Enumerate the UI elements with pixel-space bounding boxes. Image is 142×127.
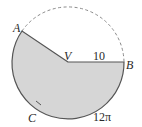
shaded-sector [12, 31, 124, 119]
sector-diagram: A V 10 B C 12π [0, 0, 142, 127]
label-v: V [64, 49, 73, 63]
label-a: A [12, 21, 21, 35]
label-c: C [28, 111, 37, 125]
label-arc-length: 12π [93, 110, 111, 124]
label-b: B [126, 58, 134, 72]
label-radius: 10 [93, 49, 105, 63]
